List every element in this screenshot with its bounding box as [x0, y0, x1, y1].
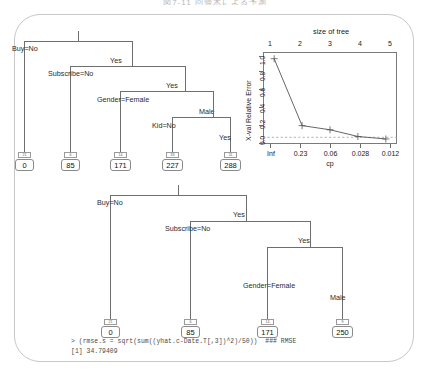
tree2-subscribe-split-bar [190, 221, 310, 222]
tree2-leaf-count: 21 [104, 319, 117, 325]
tree2-leaf-count: 9 [336, 319, 349, 325]
cp-bottom-tick: Inf [258, 150, 284, 157]
tree2-label-gender-male: Male [330, 294, 346, 301]
tree2-label-gender-female: Gender=Female [243, 282, 295, 289]
cp-y-tickmark [259, 107, 263, 108]
tree2-subscribe-stem [246, 209, 247, 221]
cp-y-tickmark [259, 125, 263, 126]
cp-y-axis-label: X-val Relative Error [245, 80, 252, 141]
cp-top-tick: 4 [352, 40, 368, 47]
cp-y-tickmark [259, 89, 263, 90]
cp-y-tickmark [259, 143, 263, 144]
screenshot-root: 図7-11 回帰木による予測 Buy=No Yes Subscribe=No Y… [0, 0, 430, 373]
tree2-branch-buy-no [110, 195, 111, 319]
cp-x-tickmark [390, 144, 391, 148]
tree2-leaf-count: 6 [184, 319, 197, 325]
tree2-branch-gender-male [342, 247, 343, 319]
cp-x-tickmark [360, 144, 361, 148]
cp-top-tick: 2 [292, 40, 308, 47]
cp-plot-canvas [263, 52, 397, 144]
console-command-line: > (rmse.s = sqrt(sum((yhat.c-Date.T[,3])… [71, 337, 296, 347]
tree2-gender-stem [310, 235, 311, 247]
tree2-root-split-bar [110, 195, 246, 196]
tree2-label-subscribe-no: Subscribe=No [165, 225, 210, 232]
cp-top-tick: 3 [322, 40, 338, 47]
cp-complexity-plot: size of tree 1 2 3 4 5 X-val Relative Er… [0, 0, 430, 180]
cp-top-tick: 1 [262, 40, 278, 47]
tree2-label-subscribe-yes: Yes [298, 237, 310, 244]
cp-x-tickmark [270, 144, 271, 148]
cp-data-markers [271, 55, 390, 142]
tree2-gender-split-bar [267, 247, 342, 248]
tree2-branch-buy-yes [246, 195, 247, 209]
cp-bottom-tick: 0.06 [317, 150, 344, 157]
cp-plot-title: size of tree [313, 27, 349, 36]
cp-bottom-tick: 0.23 [287, 150, 314, 157]
tree2-leaf-node: 250 [332, 326, 353, 338]
tree2-leaf-count: 14 [261, 319, 274, 325]
cp-bottom-tick: 0.028 [346, 150, 375, 157]
tree2-root-stem [178, 185, 179, 195]
cp-bottom-tick: 0.012 [376, 150, 405, 157]
cp-y-tickmark [259, 71, 263, 72]
cp-x-tickmark [330, 144, 331, 148]
tree2-label-buy-no: Buy=No [97, 199, 123, 206]
cp-y-tickmark [259, 56, 263, 57]
tree2-branch-subscribe-yes [310, 221, 311, 235]
cp-x-axis-label: cp [318, 160, 342, 167]
console-result-line: [1] 34.79409 [71, 347, 118, 357]
tree2-label-buy-yes: Yes [233, 211, 245, 218]
tree2-branch-subscribe-no [190, 221, 191, 319]
cp-top-tick: 5 [382, 40, 398, 47]
cp-x-tickmark [300, 144, 301, 148]
